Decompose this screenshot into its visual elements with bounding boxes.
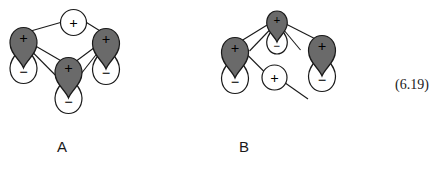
s-orbital-sign: + [69,15,78,31]
lobe-positive-sign: + [102,31,111,47]
lobe-negative-sign: − [231,74,240,90]
lobe-negative-sign: − [274,39,281,53]
lobe-negative-sign: − [19,64,28,80]
s-orbital-top: + [61,10,87,36]
diagram-b-caption: B [239,138,249,155]
lobe-negative-sign: − [64,94,73,110]
figure-canvas: + + − + − + − A [0,0,443,171]
s-orbital-center: + [262,65,287,90]
lobe-positive-sign: + [64,60,73,76]
lobe-positive-sign: + [231,40,240,56]
lobe-positive-sign: + [19,30,28,46]
lobe-negative-sign: − [102,65,111,81]
orbital-figure: + + − + − + − A [0,0,443,171]
diagram-a-caption: A [57,138,67,155]
equation-number: (6.19) [395,77,429,93]
s-orbital-sign: + [270,70,279,86]
lobe-positive-sign: + [318,38,327,54]
lobe-negative-sign: − [318,72,327,88]
p-orbital-top-center: + − [267,11,288,54]
lobe-positive-sign: + [274,13,281,27]
